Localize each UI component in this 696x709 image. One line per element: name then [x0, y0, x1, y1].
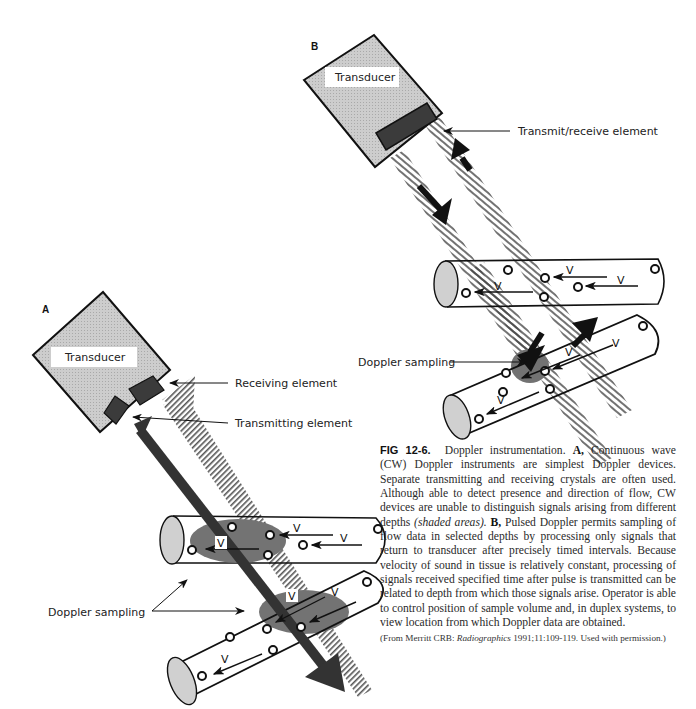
vessel-a-lower: [162, 571, 384, 709]
svg-text:V: V: [331, 586, 339, 599]
caption-a-italic: (shaded areas).: [414, 516, 487, 529]
transducer-label-a: Transducer: [64, 351, 126, 364]
caption-a-label: A,: [573, 444, 584, 457]
transducer-b: Transducer: [304, 35, 442, 167]
svg-text:V: V: [293, 522, 301, 535]
caption-b-label: B,: [491, 516, 502, 529]
svg-text:V: V: [340, 532, 348, 545]
callout-receiving-element: Receiving element: [235, 377, 338, 390]
panel-a-label: A: [42, 304, 49, 315]
panel-b-label: B: [311, 41, 318, 52]
svg-text:V: V: [617, 274, 625, 287]
svg-text:V: V: [566, 264, 574, 277]
svg-text:V: V: [221, 653, 229, 666]
svg-text:V: V: [497, 394, 505, 407]
figure-number: FIG 12-6.: [380, 444, 431, 456]
caption-title: Doppler instrumentation.: [445, 444, 566, 457]
caption-credit: (From Merritt CRB: Radiographics 1991;11…: [380, 632, 676, 644]
panel-a: A Transducer Receiving element Transmitt…: [33, 292, 385, 709]
svg-text:V: V: [288, 590, 296, 603]
svg-text:V: V: [612, 337, 620, 350]
svg-text:V: V: [217, 537, 225, 550]
transducer-a: Transducer: [33, 292, 170, 432]
svg-text:V: V: [494, 280, 502, 293]
callout-doppler-sampling-b: Doppler sampling: [358, 356, 455, 369]
caption-b-text: Pulsed Doppler permits sampling of flow …: [380, 516, 676, 629]
panel-b: B Transducer Transmit/receive element: [304, 35, 664, 466]
callout-doppler-sampling-a: Doppler sampling: [48, 606, 145, 619]
callout-transmitting-element: Transmitting element: [234, 417, 353, 430]
svg-text:V: V: [565, 346, 573, 359]
transducer-label-b: Transducer: [334, 71, 396, 84]
callout-transmit-receive: Transmit/receive element: [517, 125, 659, 138]
figure-caption: FIG 12-6. Doppler instrumentation. A, Co…: [380, 443, 676, 644]
